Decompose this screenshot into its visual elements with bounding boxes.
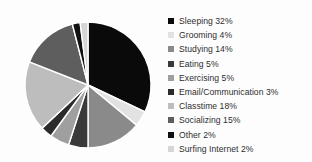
legend-item-label: Socializing 15% xyxy=(179,115,240,125)
legend-item-label: Exercising 5% xyxy=(179,73,234,83)
legend-item[interactable]: Classtime 18% xyxy=(168,99,312,113)
legend-item-label: Email/Communication 3% xyxy=(179,87,279,97)
pie-chart-figure: Sleeping 32%Grooming 4%Studying 14%Eatin… xyxy=(0,0,312,162)
legend-color-swatch xyxy=(168,61,174,67)
legend-item-label: Surfing Internet 2% xyxy=(179,144,254,154)
legend-item[interactable]: Socializing 15% xyxy=(168,113,312,127)
legend-item[interactable]: Sleeping 32% xyxy=(168,14,312,28)
legend-item[interactable]: Other 2% xyxy=(168,128,312,142)
legend-color-swatch xyxy=(168,89,174,95)
legend-item-label: Sleeping 32% xyxy=(179,16,233,26)
chart-legend: Sleeping 32%Grooming 4%Studying 14%Eatin… xyxy=(168,14,312,156)
legend-color-swatch xyxy=(168,132,174,138)
legend-item-label: Studying 14% xyxy=(179,44,233,54)
legend-item-label: Other 2% xyxy=(179,130,216,140)
legend-color-swatch xyxy=(168,146,174,152)
legend-item[interactable]: Studying 14% xyxy=(168,42,312,56)
pie-svg xyxy=(0,0,165,162)
legend-color-swatch xyxy=(168,117,174,123)
legend-color-swatch xyxy=(168,75,174,81)
legend-color-swatch xyxy=(168,103,174,109)
pie-slice-group xyxy=(25,22,151,148)
legend-item[interactable]: Email/Communication 3% xyxy=(168,85,312,99)
legend-item-label: Grooming 4% xyxy=(179,30,232,40)
legend-color-swatch xyxy=(168,32,174,38)
pie-plot-area xyxy=(0,0,165,162)
legend-color-swatch xyxy=(168,46,174,52)
legend-color-swatch xyxy=(168,18,174,24)
legend-item[interactable]: Surfing Internet 2% xyxy=(168,142,312,156)
legend-item-label: Eating 5% xyxy=(179,59,219,69)
legend-item[interactable]: Exercising 5% xyxy=(168,71,312,85)
legend-item[interactable]: Grooming 4% xyxy=(168,28,312,42)
legend-item-label: Classtime 18% xyxy=(179,101,237,111)
legend-item[interactable]: Eating 5% xyxy=(168,57,312,71)
